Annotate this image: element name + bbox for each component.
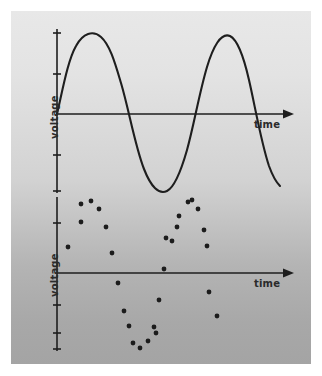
sine-wave-curve (57, 33, 280, 192)
scatter-dot (131, 341, 136, 346)
scatter-dot (152, 325, 157, 330)
bottom-x-axis-label: time (254, 278, 280, 289)
scatter-dot (110, 251, 115, 256)
scatter-dot (207, 290, 212, 295)
figure-root: voltage time voltage time (0, 0, 322, 376)
scatter-points (66, 198, 220, 351)
scatter-dot (104, 225, 109, 230)
scatter-dot (127, 324, 132, 329)
scatter-dot (97, 207, 102, 212)
scatter-dot (162, 267, 167, 272)
bottom-x-axis-arrowhead (283, 268, 294, 277)
bottom-chart-group (53, 197, 294, 351)
scatter-dot (196, 207, 201, 212)
top-x-axis-label: time (254, 119, 280, 130)
scatter-dot (170, 239, 175, 244)
scatter-dot (138, 346, 143, 351)
scatter-dot (164, 236, 169, 241)
scatter-dot (66, 245, 71, 250)
scatter-dot (116, 281, 121, 286)
top-x-axis-arrowhead (283, 109, 294, 118)
scatter-dot (79, 202, 84, 207)
plot-svg (11, 11, 311, 364)
scatter-dot (190, 198, 195, 203)
scatter-dot (146, 339, 151, 344)
scatter-dot (202, 228, 207, 233)
scatter-dot (175, 225, 180, 230)
figure-panel: voltage time voltage time (11, 11, 311, 364)
scatter-dot (89, 199, 94, 204)
analog-waveform-chart: voltage time voltage time (11, 11, 311, 364)
scatter-dot (122, 309, 127, 314)
scatter-dot (157, 298, 162, 303)
bottom-y-axis-label: voltage (49, 253, 60, 297)
scatter-dot (205, 244, 210, 249)
scatter-dot (79, 220, 84, 225)
scatter-dot (154, 331, 159, 336)
top-chart-group (53, 29, 294, 193)
scatter-dot (215, 314, 220, 319)
top-y-axis-label: voltage (49, 95, 60, 139)
scatter-dot (177, 214, 182, 219)
